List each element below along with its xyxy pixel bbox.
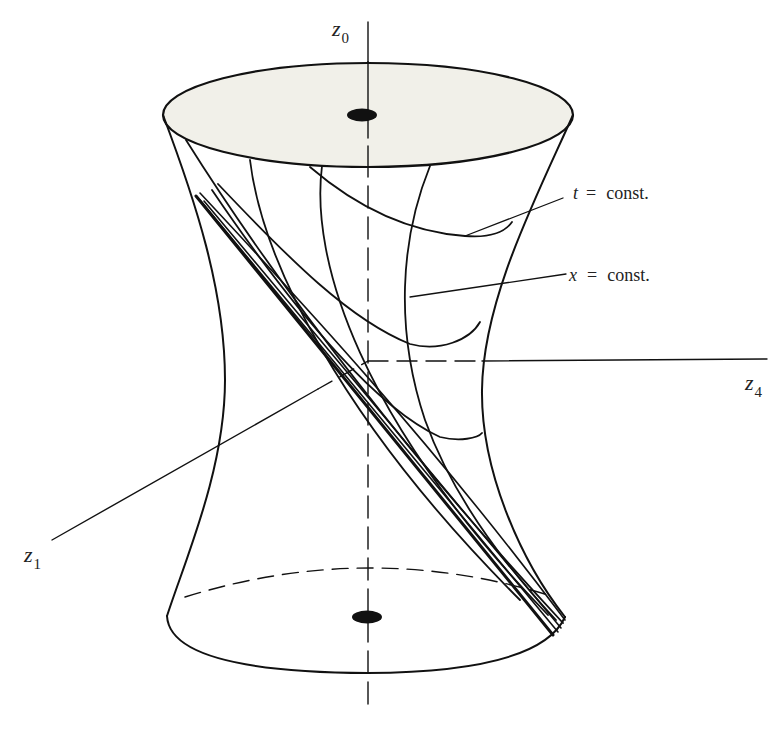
x-const-curve-2: [250, 160, 520, 600]
hyperboloid-diagram: z0 z4 z1 t=const. x=const.: [0, 0, 783, 729]
z4-label: z4: [744, 370, 763, 400]
left-silhouette: [163, 115, 225, 616]
null-line-1: [196, 196, 553, 635]
z1-label: z1: [23, 542, 41, 572]
t-const-curve-1: [310, 167, 512, 236]
x-const-label: x=const.: [568, 265, 650, 285]
x-const-curve-4: [405, 166, 556, 620]
t-const-curve-3: [212, 190, 482, 439]
bottom-center-dot: [352, 611, 382, 624]
bottom-ellipse-front: [167, 616, 565, 673]
x-const-leader: [410, 274, 566, 297]
z0-label: z0: [331, 16, 349, 46]
top-center-dot: [347, 109, 377, 122]
t-const-label: t=const.: [573, 183, 649, 203]
z1-axis-solid: [52, 389, 318, 540]
z4-axis-solid: [482, 359, 767, 361]
t-const-leader: [465, 198, 563, 236]
right-silhouette: [482, 115, 573, 617]
